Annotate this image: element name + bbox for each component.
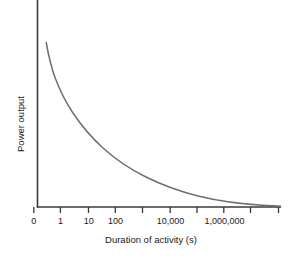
x-tick-label-1000000: 1,000,000 — [204, 216, 244, 226]
chart-plot-area: 0 1 10 100 10,000 1,000,000 Duration of … — [0, 0, 295, 259]
x-axis-title: Duration of activity (s) — [105, 234, 197, 245]
x-tick-label-0: 0 — [31, 216, 36, 226]
power-output-curve — [46, 43, 280, 207]
y-axis-title: Power output — [15, 96, 26, 152]
x-tick-label-1: 1 — [58, 216, 63, 226]
power-duration-chart: 0 1 10 100 10,000 1,000,000 Duration of … — [0, 0, 295, 259]
x-axis-ticks — [34, 207, 279, 213]
x-tick-label-10000: 10,000 — [157, 216, 185, 226]
x-tick-label-100: 100 — [108, 216, 123, 226]
x-tick-label-10: 10 — [84, 216, 94, 226]
